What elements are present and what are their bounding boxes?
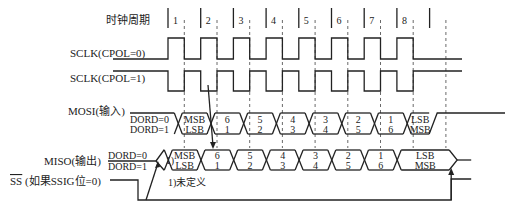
footnote-undefined: 1)未定义 bbox=[168, 176, 206, 189]
period-number: 4 bbox=[271, 15, 276, 26]
period-number: 5 bbox=[304, 15, 309, 26]
miso-cell-bottom: MSB bbox=[415, 160, 436, 171]
mosi-dord1-label: DORD=1 bbox=[130, 124, 169, 135]
miso-dord0-label: DORD=0 bbox=[108, 150, 147, 161]
ss-label: SS (如果SSIG位=0) bbox=[10, 174, 101, 188]
sclk-cpol0-label: SCLK(CPOL=0) bbox=[70, 47, 146, 60]
miso-cell-bottom: 3 bbox=[280, 160, 285, 171]
ss-suffix-text: (如果SSIG位=0) bbox=[22, 174, 101, 188]
spi-timing-diagram: 时钟周期 SCLK(CPOL=0) SCLK(CPOL=1) MOSI(输入) … bbox=[0, 0, 512, 213]
mosi-cell-bottom: 6 bbox=[388, 124, 393, 135]
period-number: 6 bbox=[337, 15, 342, 26]
mosi-cell-bottom: MSB bbox=[410, 124, 431, 135]
sclk-to-miso-arrow bbox=[208, 85, 213, 146]
miso-label: MISO(输出) bbox=[44, 154, 101, 168]
ss-bar-text: SS bbox=[10, 175, 22, 187]
sclk-cpol0-wave bbox=[113, 38, 462, 59]
period-number: 8 bbox=[402, 15, 407, 26]
sclk-cpol1-label: SCLK(CPOL=1) bbox=[70, 72, 146, 85]
miso-cell-bottom: 1 bbox=[215, 160, 220, 171]
miso-waveform: 1)MSBLSB615243342516LSBMSB bbox=[156, 150, 471, 171]
sclk-cpol1-wave bbox=[113, 71, 462, 91]
miso-cell-bottom: 4 bbox=[313, 160, 318, 171]
miso-end bbox=[449, 150, 457, 170]
ss-to-miso-arrow bbox=[146, 163, 158, 200]
mosi-cell-bottom: 4 bbox=[323, 124, 328, 135]
mosi-cell-bottom: 1 bbox=[225, 124, 230, 135]
miso-pre-top bbox=[156, 150, 164, 161]
period-number: 7 bbox=[369, 15, 374, 26]
mosi-cell-bottom: 5 bbox=[356, 124, 361, 135]
miso-cell-bottom: 2 bbox=[248, 160, 253, 171]
mosi-waveform: MSBLSB615243342516LSBMSB bbox=[130, 113, 505, 135]
period-number: 3 bbox=[238, 15, 243, 26]
ss-waveform bbox=[110, 85, 471, 200]
mosi-end-line bbox=[429, 113, 505, 134]
miso-cell-bottom: 6 bbox=[378, 160, 383, 171]
miso-cell-bottom: 5 bbox=[346, 160, 351, 171]
mosi-label: MOSI(输入) bbox=[68, 104, 125, 118]
clock-period-markers: 12345678 bbox=[168, 8, 430, 28]
mosi-cell-bottom: 3 bbox=[290, 124, 295, 135]
mosi-cell-bottom: LSB bbox=[185, 124, 204, 135]
arrow-head bbox=[448, 168, 454, 175]
miso-cell-bottom: LSB bbox=[175, 160, 194, 171]
miso-dord1-label: DORD=1 bbox=[108, 161, 147, 172]
sclk-waveforms bbox=[113, 38, 462, 91]
mosi-cell-bottom: 2 bbox=[258, 124, 263, 135]
arrow-head bbox=[210, 142, 216, 149]
clock-period-label: 时钟周期 bbox=[106, 13, 150, 26]
period-number: 2 bbox=[206, 15, 211, 26]
ss-wave bbox=[110, 179, 471, 200]
period-number: 1 bbox=[173, 15, 178, 26]
